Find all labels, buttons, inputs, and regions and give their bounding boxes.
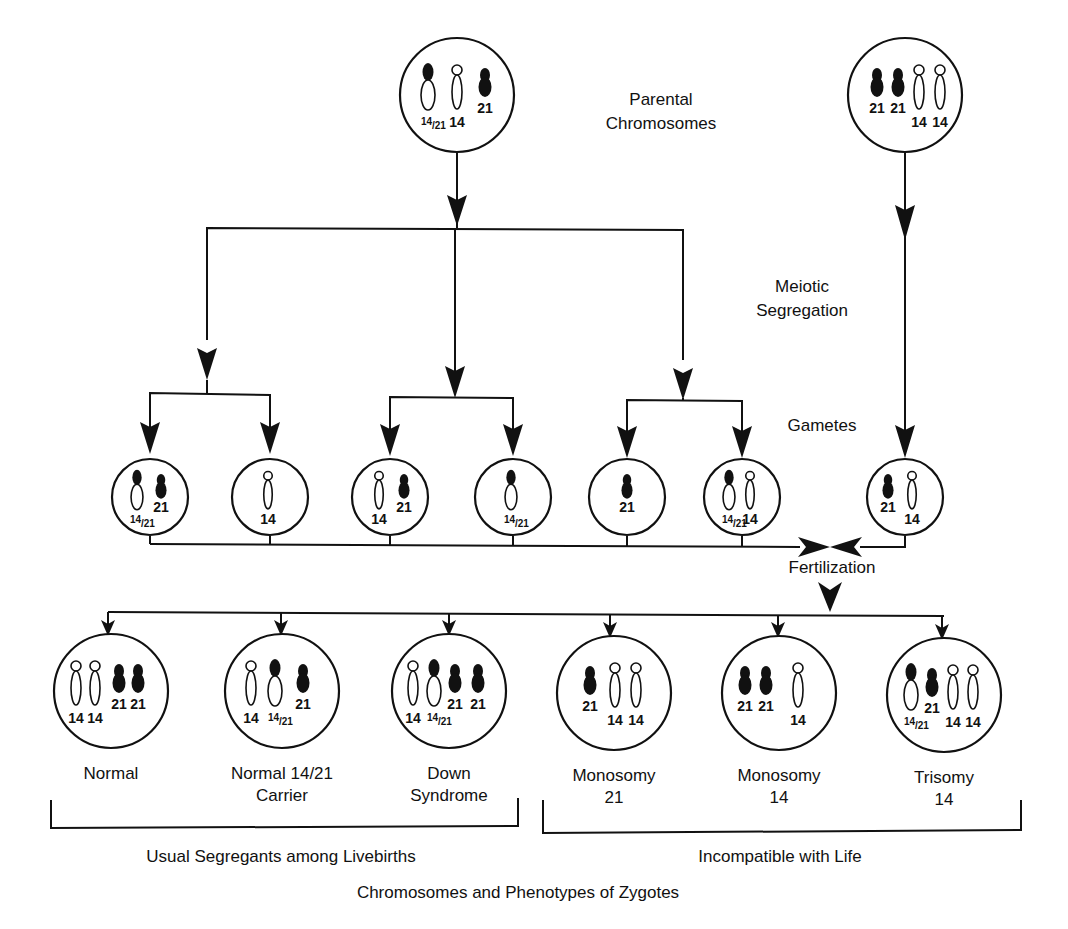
chromosome-label: 14 [68,710,84,726]
chromosome-14-icon [968,665,978,709]
chromosome-14-icon [793,663,803,707]
chromosome-21-icon [760,666,773,695]
chromosome-21-icon [621,474,632,499]
chromosome-label: 21 [447,696,463,712]
chromosome-14-icon [935,65,945,109]
translocation-segregation-diagram: 14/2114212121141414/212114142114/212114/… [0,0,1068,929]
chromosome-translocation-icon [268,659,282,706]
gamete-cell-3: 1421 [352,459,428,535]
chromosome-14-icon [631,663,641,707]
chromosome-label: 21 [295,696,311,712]
chromosome-label: 21 [111,696,127,712]
chromosome-label: 21 [396,499,412,515]
gamete-cell-4: 14/21 [475,459,551,535]
arrow-icon [895,205,915,240]
chromosome-label: 21 [890,100,906,116]
chromosome-translocation-icon [421,63,435,110]
meiotic-label-line1: Meiotic [775,277,829,296]
livebirths-label: Usual Segregants among Livebirths [146,847,415,866]
chromosome-label: 21 [153,499,169,515]
chromosome-21-icon [892,68,905,97]
fertilization-label: Fertilization [789,558,876,577]
chromosome-14-icon [246,661,256,705]
meiotic-label-line2: Segregation [756,301,848,320]
fertilization-arrow-icon [830,537,862,557]
parental-label-line1: Parental [629,90,692,109]
chromosome-21-icon [449,664,462,693]
zygote-phenotype-label: Down [427,764,470,783]
cell-outline [352,459,428,535]
chromosome-label: 14 [904,716,916,727]
chromosome-label: 14 [504,514,516,525]
chromosome-label: 21 [880,499,896,515]
chromosome-label: /21 [438,716,452,727]
chromosome-label: 21 [737,698,753,714]
chromosome-14-icon [375,472,384,509]
chromosome-label: /21 [141,518,155,529]
zygote-phenotype-label: 14 [770,788,789,807]
chromosome-label: 21 [619,499,635,515]
chromosome-label: 21 [477,100,493,116]
chromosome-14-icon [914,65,924,109]
chromosome-label: 14 [790,712,806,728]
chromosome-14-icon [71,661,81,705]
chromosome-label: 14 [243,710,259,726]
zygote-phenotype-label: Monosomy [572,766,656,785]
carrier-parent-cell: 14/211421 [400,38,514,152]
chromosome-21-icon [398,474,409,499]
chromosome-label: 21 [130,696,146,712]
chromosome-label: 14 [607,712,623,728]
zygote-phenotype-label: Syndrome [410,786,487,805]
chromosome-21-icon [155,474,166,499]
chromosome-14-icon [264,472,273,509]
chromosome-label: 21 [470,696,486,712]
chromosome-21-icon [926,668,939,697]
chromosome-21-icon [739,666,752,695]
chromosome-14-icon [610,663,620,707]
chromosome-label: /21 [915,720,929,731]
cell-group: 14/2114212121141414/212114142114/212114/… [54,38,1001,809]
gamete-cell-6: 14/2114 [704,459,780,535]
fertilization-arrow-icon [798,537,830,557]
gamete-cell-5: 21 [589,459,665,535]
chromosome-21-icon [472,664,485,693]
chromosome-14-icon [452,65,462,109]
zygote-cell-3: 1414/212121DownSyndrome [392,634,506,805]
chromosome-label: 21 [869,100,885,116]
footer-caption: Chromosomes and Phenotypes of Zygotes [357,883,679,902]
chromosome-label: 14 [427,712,439,723]
chromosome-label: 14 [268,712,280,723]
chromosome-21-icon [113,664,126,693]
parental-label-line2: Chromosomes [606,114,717,133]
chromosome-label: 14 [904,511,920,527]
chromosome-label: 14 [260,511,276,527]
cell-outline [722,636,836,750]
gamete-cell-2: 14 [232,459,308,535]
chromosome-21-icon [297,664,310,693]
chromosome-translocation-icon [427,659,441,706]
diagram-canvas: 14/2114212121141414/212114142114/212114/… [0,0,1068,929]
gamete-cell-1: 14/2121 [112,459,188,535]
chromosome-label: /21 [279,716,293,727]
chromosome-label: 14 [911,114,927,130]
chromosome-14-icon [948,665,958,709]
chromosome-label: 14 [965,714,981,730]
chromosome-label: 14 [932,114,948,130]
gamete-cell-7: 2114 [867,459,943,535]
zygote-cell-2: 1414/2121Normal 14/21Carrier [225,634,339,805]
zygote-phenotype-label: 14 [935,790,954,809]
chromosome-label: /21 [432,120,446,131]
normal-parent-cell: 21211414 [848,38,962,152]
incompatible-label: Incompatible with Life [698,847,861,866]
chromosome-translocation-icon [904,663,918,710]
chromosome-label: 14 [371,511,387,527]
zygote-phenotype-label: Normal [84,764,139,783]
chromosome-label: 21 [758,698,774,714]
chromosome-label: 14 [405,710,421,726]
chromosome-label: 21 [924,700,940,716]
arrow-icon [673,368,693,400]
chromosome-translocation-icon [131,470,143,510]
chromosome-21-icon [479,68,492,97]
chromosome-14-icon [90,661,100,705]
zygote-phenotype-label: 21 [605,788,624,807]
